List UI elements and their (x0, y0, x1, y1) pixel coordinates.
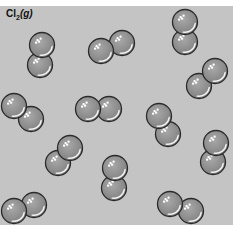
formula-element: Cl (6, 8, 16, 19)
chlorine-atom (103, 156, 128, 181)
chlorine-atom (58, 136, 83, 161)
formula-state: (g) (20, 8, 33, 19)
cl2-molecule (102, 156, 128, 201)
molecule-scene (0, 0, 233, 230)
cl2-molecule (173, 10, 198, 55)
chlorine-atom (204, 131, 229, 156)
chlorine-atom (2, 199, 27, 224)
formula-label: Cl2(g) (6, 8, 33, 21)
chlorine-atom (2, 94, 27, 119)
cl2-molecule (2, 193, 47, 224)
cl2-molecule (158, 192, 204, 224)
chlorine-atom (147, 104, 172, 129)
chlorine-atom (203, 59, 228, 84)
cl2-molecule (2, 94, 44, 132)
chlorine-atom (30, 33, 55, 58)
cl2-molecule (46, 136, 83, 176)
cl2-molecule (89, 31, 135, 64)
chlorine-atom (76, 97, 101, 122)
chlorine-atom (89, 39, 114, 64)
chlorine-atom (158, 192, 183, 217)
cl2-molecule (147, 104, 181, 147)
cl2-molecule (76, 97, 122, 122)
chlorine-atom (173, 10, 198, 35)
cl2-molecule (187, 59, 228, 99)
cl2-molecule (201, 131, 229, 175)
cl2-molecule (28, 33, 55, 78)
